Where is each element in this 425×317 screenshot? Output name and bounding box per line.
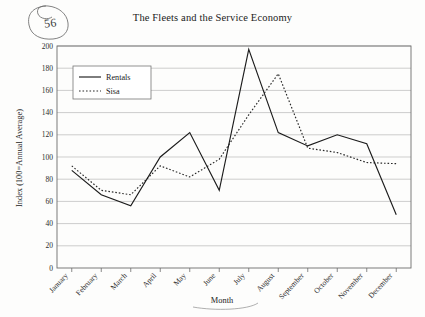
y-tick-label: 140 <box>42 108 54 117</box>
y-tick-label: 20 <box>46 241 54 250</box>
y-axis-title: Index (100=Annual Average) <box>15 109 24 207</box>
x-tick-label: May <box>172 271 188 287</box>
line-chart: 200 180 160 140 120 100 80 60 40 20 0 In… <box>0 0 425 317</box>
x-tick-label: August <box>255 271 277 294</box>
y-tick-label: 100 <box>42 153 54 162</box>
page-canvas: 56 The Fleets and the Service Economy 20… <box>0 0 425 317</box>
x-tick-label: March <box>109 271 129 292</box>
y-tick-label: 40 <box>46 219 54 228</box>
y-tick-label: 180 <box>42 64 54 73</box>
x-axis-tickmarks <box>72 268 397 272</box>
x-tick-label: July <box>231 271 246 287</box>
y-tick-label: 60 <box>46 197 54 206</box>
x-tick-label: January <box>47 271 70 295</box>
x-tick-label: November <box>336 271 365 301</box>
y-tick-label: 80 <box>46 175 54 184</box>
y-tick-label: 120 <box>42 130 54 139</box>
x-tick-label: June <box>201 271 218 288</box>
y-tick-label: 200 <box>42 42 54 51</box>
x-tick-label: October <box>312 271 336 295</box>
x-tick-label: February <box>74 271 99 297</box>
y-axis-tick-labels: 200 180 160 140 120 100 80 60 40 20 0 <box>42 42 54 273</box>
y-tick-label: 0 <box>49 264 53 273</box>
chart-legend: Rentals Sisa <box>73 66 151 99</box>
legend-label-rentals: Rentals <box>106 73 131 82</box>
x-tick-label: April <box>141 271 159 289</box>
x-tick-label: December <box>366 271 394 300</box>
x-axis-title: Month <box>211 296 234 305</box>
legend-label-sisa: Sisa <box>106 87 120 96</box>
x-tick-label: September <box>277 271 306 301</box>
y-tick-label: 160 <box>42 86 54 95</box>
